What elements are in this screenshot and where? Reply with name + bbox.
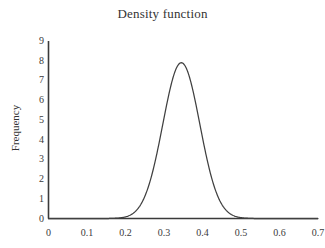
- y-tick-label: 5: [26, 115, 44, 125]
- y-tick-label: 9: [26, 36, 44, 46]
- y-tick-label: 4: [26, 135, 44, 145]
- y-tick-label: 3: [26, 154, 44, 164]
- density-function-chart: Density function Frequency 0123456789 00…: [0, 0, 325, 248]
- x-tick-label: 0.6: [263, 228, 297, 238]
- x-tick-label: 0.2: [109, 228, 143, 238]
- x-tick-label: 0: [32, 228, 66, 238]
- density-curve-path: [49, 63, 319, 219]
- x-tick-label: 0.7: [301, 228, 325, 238]
- y-tick-label: 7: [26, 75, 44, 85]
- x-tick-label: 0.3: [147, 228, 181, 238]
- x-tick-label: 0.4: [186, 228, 220, 238]
- plot-area: [0, 0, 325, 248]
- y-tick-label: 0: [26, 214, 44, 224]
- y-tick-label: 1: [26, 194, 44, 204]
- x-tick-label: 0.5: [224, 228, 258, 238]
- x-tick-label: 0.1: [70, 228, 104, 238]
- y-tick-label: 8: [26, 56, 44, 66]
- y-tick-label: 2: [26, 174, 44, 184]
- y-tick-label: 6: [26, 95, 44, 105]
